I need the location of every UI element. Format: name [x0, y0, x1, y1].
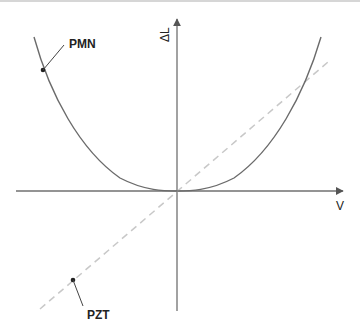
- pzt-label: PZT: [87, 308, 110, 322]
- x-axis-label: V: [336, 199, 344, 213]
- pzt-line: [40, 62, 328, 309]
- pmn-label: PMN: [69, 37, 96, 51]
- y-axis-label: ΔL: [158, 27, 172, 42]
- pmn-leader-line: [43, 45, 64, 70]
- strain-voltage-diagram: PMN PZT V ΔL: [0, 0, 360, 329]
- pzt-leader-line: [73, 280, 83, 306]
